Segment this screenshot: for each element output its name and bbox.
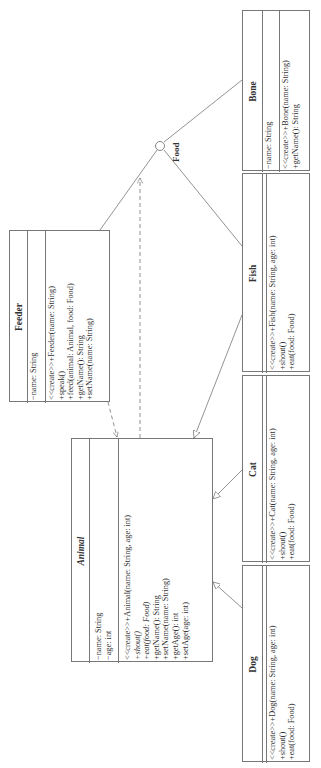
feeder-food-link <box>100 150 157 230</box>
bone-food-link <box>164 80 242 142</box>
operation: +setAge(age: int) <box>181 442 191 660</box>
class-feeder-attributes: −name: String <box>28 231 46 403</box>
operation: +getAge(): int <box>171 442 181 660</box>
feeder-animal-dependency <box>108 402 117 437</box>
class-feeder[interactable]: Feeder −name: String <<create>>+Feeder(n… <box>9 230 110 402</box>
abstract-operation: +eat(food: Food) <box>142 442 152 660</box>
class-cat-name: Cat <box>243 376 263 563</box>
operation: <<create>>+Animal(name: String, age: int… <box>123 442 133 660</box>
class-feeder-operations: <<create>>+Feeder(name: String) +speak()… <box>46 231 111 403</box>
class-animal-name: Animal <box>72 439 90 663</box>
class-dog-operations: <<create>>+Dog(name: String, age: int) +… <box>267 566 311 763</box>
class-animal[interactable]: Animal −name: String −age: int <<create>… <box>71 438 213 662</box>
operation: +eat(food: Food) <box>287 177 297 370</box>
operation: +shout() <box>278 569 288 760</box>
operation: +getName(): String <box>291 14 301 169</box>
operation: <<create>>+Dog(name: String, age: int) <box>268 569 278 760</box>
operation: <<create>>+Cat(name: String, age: int) <box>268 379 278 560</box>
operation: +getName(): String <box>76 234 86 400</box>
operation: +eat(food: Food) <box>287 569 297 760</box>
fish-animal-generalization <box>194 315 242 438</box>
class-bone-attributes: −name: String <box>263 11 280 172</box>
operation: <<create>>+Feeder(name: String) <box>47 234 57 400</box>
class-fish[interactable]: Fish <<create>>+Fish(name: String, age: … <box>242 173 310 372</box>
class-feeder-name: Feeder <box>10 231 28 403</box>
operation: <<create>>+Fish(name: String, age: int) <box>268 177 278 370</box>
class-cat-operations: <<create>>+Cat(name: String, age: int) +… <box>267 376 311 563</box>
class-dog-name: Dog <box>243 566 263 763</box>
operation: +setName(name: String) <box>161 442 171 660</box>
attribute: −name: String <box>29 234 39 400</box>
food-interface-label: Food <box>171 142 181 162</box>
class-fish-name: Fish <box>243 174 263 373</box>
class-bone[interactable]: Bone −name: String <<create>>+Bone(name:… <box>242 10 310 171</box>
class-dog[interactable]: Dog <<create>>+Dog(name: String, age: in… <box>242 565 310 762</box>
class-animal-attributes: −name: String −age: int <box>90 439 119 663</box>
operation: +speak() <box>57 234 67 400</box>
operation: +setName(name: String) <box>85 234 95 400</box>
class-fish-operations: <<create>>+Fish(name: String, age: int) … <box>267 174 311 373</box>
operation: +getName(): String <box>152 442 162 660</box>
class-bone-name: Bone <box>243 11 263 172</box>
dog-animal-generalization <box>213 582 242 608</box>
operation: +shout() <box>278 379 288 560</box>
class-bone-operations: <<create>>+Bone(name: String) +getName()… <box>280 11 311 172</box>
class-animal-operations: <<create>>+Animal(name: String, age: int… <box>119 439 214 663</box>
abstract-operation: +shout() <box>133 442 143 660</box>
operation: +shout() <box>278 177 288 370</box>
attribute: −age: int <box>104 442 114 660</box>
food-interface-icon <box>156 142 165 151</box>
attribute: −name: String <box>264 14 274 169</box>
attribute: −name: String <box>94 442 104 660</box>
fish-food-link <box>164 150 242 246</box>
class-cat[interactable]: Cat <<create>>+Cat(name: String, age: in… <box>242 375 310 562</box>
operation: <<create>>+Bone(name: String) <box>281 14 291 169</box>
operation: +eat(food: Food) <box>287 379 297 560</box>
operation: +feed(animal: Animal, food: Food) <box>66 234 76 400</box>
cat-animal-generalization <box>213 470 242 499</box>
